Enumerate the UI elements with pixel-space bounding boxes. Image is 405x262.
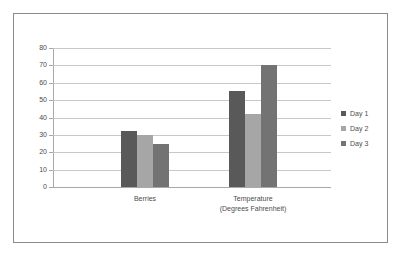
gridline-40 [53, 118, 331, 119]
y-tick-label-60: 60 [17, 79, 47, 86]
y-tick-label-10: 10 [17, 166, 47, 173]
bar-day-1-group-2 [229, 91, 245, 187]
chart-legend: Day 1Day 2Day 3 [341, 106, 389, 151]
bar-day-2-group-1 [137, 135, 153, 187]
y-tick-mark-70 [49, 65, 53, 66]
chart-frame: 01020304050607080 BerriesTemperature(Deg… [13, 13, 388, 243]
y-tick-label-30: 30 [17, 131, 47, 138]
legend-label: Day 2 [350, 125, 368, 132]
category-label-1: Berries [85, 194, 205, 204]
y-tick-mark-10 [49, 170, 53, 171]
bar-day-2-group-2 [245, 114, 261, 187]
y-tick-label-0: 0 [17, 183, 47, 190]
gridline-60 [53, 83, 331, 84]
y-tick-mark-40 [49, 118, 53, 119]
gridline-50 [53, 100, 331, 101]
legend-label: Day 1 [350, 110, 368, 117]
y-tick-label-80: 80 [17, 44, 47, 51]
gridline-20 [53, 152, 331, 153]
legend-swatch-icon [341, 126, 346, 131]
gridline-0 [53, 187, 331, 188]
y-tick-label-70: 70 [17, 61, 47, 68]
category-label-line: Temperature [193, 194, 313, 204]
gridline-70 [53, 65, 331, 66]
y-tick-mark-30 [49, 135, 53, 136]
category-label-2: Temperature(Degrees Fahrenheit) [193, 194, 313, 214]
gridline-80 [53, 48, 331, 49]
category-label-line: Berries [85, 194, 205, 204]
y-tick-label-50: 50 [17, 96, 47, 103]
plot-area [53, 48, 331, 187]
category-label-line: (Degrees Fahrenheit) [193, 204, 313, 214]
y-tick-mark-20 [49, 152, 53, 153]
bar-day-3-group-2 [261, 65, 277, 187]
y-tick-label-20: 20 [17, 148, 47, 155]
legend-swatch-icon [341, 111, 346, 116]
y-tick-mark-80 [49, 48, 53, 49]
y-axis-tick-labels: 01020304050607080 [14, 48, 47, 188]
legend-item-day-2[interactable]: Day 2 [341, 121, 389, 136]
y-tick-mark-0 [49, 187, 53, 188]
bar-day-3-group-1 [153, 144, 169, 187]
y-tick-mark-50 [49, 100, 53, 101]
legend-label: Day 3 [350, 140, 368, 147]
bar-day-1-group-1 [121, 131, 137, 187]
legend-item-day-1[interactable]: Day 1 [341, 106, 389, 121]
gridline-10 [53, 170, 331, 171]
y-tick-label-40: 40 [17, 114, 47, 121]
legend-item-day-3[interactable]: Day 3 [341, 136, 389, 151]
y-tick-mark-60 [49, 83, 53, 84]
legend-swatch-icon [341, 141, 346, 146]
gridline-30 [53, 135, 331, 136]
